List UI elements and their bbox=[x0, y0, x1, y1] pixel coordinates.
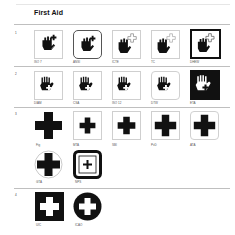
symbol-hand-cross bbox=[34, 71, 63, 100]
symbol-hand-cross-inverted bbox=[190, 70, 220, 100]
row-divider bbox=[14, 107, 230, 108]
symbol-cross bbox=[190, 111, 219, 140]
symbol-label: ISO 12 bbox=[112, 101, 121, 105]
hand-cross-palm-icon bbox=[74, 72, 101, 99]
symbol-label: SBI bbox=[112, 143, 117, 147]
row-divider bbox=[14, 66, 230, 67]
row-number: 4 bbox=[15, 193, 17, 197]
symbol-label: CSA bbox=[73, 101, 79, 105]
white-cross-on-black-circle-icon bbox=[73, 192, 102, 221]
page-title: First Aid bbox=[34, 9, 63, 16]
hand-with-outline-plus-icon bbox=[113, 31, 140, 58]
large-cross-icon bbox=[34, 111, 63, 140]
symbol-cross bbox=[151, 111, 180, 140]
symbol-label: Fig bbox=[36, 143, 40, 147]
hand-cross-palm-icon bbox=[113, 72, 140, 99]
symbol-label: ATA bbox=[190, 143, 195, 147]
symbol-hand-outline-plus bbox=[151, 30, 180, 59]
row-divider bbox=[14, 24, 230, 25]
row-divider bbox=[14, 188, 230, 189]
cross-icon bbox=[113, 112, 140, 139]
symbol-label: ETA bbox=[190, 101, 196, 105]
hand-with-plus-icon bbox=[74, 31, 101, 58]
white-cross-on-black-square-icon bbox=[35, 192, 64, 221]
row-number: 3 bbox=[15, 112, 17, 116]
symbol-label: ISO 7 bbox=[34, 60, 42, 64]
symbol-label: PvD bbox=[151, 143, 157, 147]
symbol-label: UIC bbox=[36, 223, 41, 227]
symbol-small-cross-frame bbox=[73, 150, 102, 179]
cross-in-circle-icon bbox=[34, 150, 63, 179]
symbol-label: DIAM bbox=[34, 101, 42, 105]
symbol-hand-plus bbox=[34, 30, 63, 59]
symbol-label: ICAO bbox=[75, 223, 82, 227]
hand-cross-palm-icon bbox=[152, 72, 179, 99]
symbol-cross bbox=[73, 111, 102, 140]
symbol-hand-cross bbox=[73, 71, 102, 100]
hand-with-plus-icon bbox=[35, 31, 62, 58]
symbol-label: GTA bbox=[36, 180, 42, 184]
cross-icon bbox=[74, 112, 101, 139]
symbol-label: ANSI bbox=[73, 60, 80, 64]
symbol-hand-cross bbox=[112, 71, 141, 100]
row-number: 1 bbox=[15, 31, 17, 35]
cross-icon bbox=[152, 112, 179, 139]
cross-icon bbox=[191, 112, 218, 139]
hand-with-outline-plus-icon bbox=[152, 31, 179, 58]
symbol-label: MTA bbox=[73, 143, 79, 147]
symbol-hand-outline-plus bbox=[190, 29, 221, 59]
symbol-label: TC bbox=[151, 60, 155, 64]
symbol-hand-plus bbox=[73, 30, 102, 59]
hand-cross-palm-icon bbox=[35, 72, 62, 99]
symbol-white-cross-square bbox=[35, 192, 64, 221]
hand-with-outline-plus-icon bbox=[192, 31, 219, 57]
hand-cross-palm-inverted-icon bbox=[190, 70, 220, 100]
symbol-label: NPS bbox=[75, 180, 81, 184]
symbol-hand-cross bbox=[151, 71, 180, 100]
top-divider bbox=[16, 4, 230, 5]
symbol-hand-outline-plus bbox=[112, 30, 141, 59]
symbol-white-cross-circle bbox=[73, 192, 102, 221]
symbol-label: DTW bbox=[151, 101, 158, 105]
symbol-label: DHEW bbox=[190, 60, 199, 64]
small-cross-icon bbox=[73, 150, 102, 179]
symbol-cross-circle bbox=[34, 150, 63, 179]
symbol-large-cross bbox=[34, 111, 63, 140]
symbol-cross bbox=[112, 111, 141, 140]
row-number: 2 bbox=[15, 72, 17, 76]
symbol-label: ICTE bbox=[112, 60, 119, 64]
